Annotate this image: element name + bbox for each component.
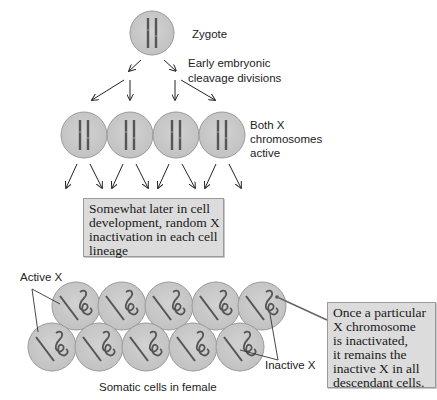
box-line: Once a particular (333, 306, 430, 320)
box-line: inactivation in each cell (89, 230, 218, 244)
somatic-cells-label: Somatic cells in female (99, 380, 217, 395)
somatic-cells-top-row (52, 282, 286, 330)
early-embryo-cells (61, 112, 245, 158)
cleavage-label-line2: cleavage divisions (188, 71, 281, 86)
box-line: lineage (89, 244, 218, 258)
both-active-label-line3: active (250, 146, 280, 161)
inheritance-box: Once a particular X chromosome is inacti… (327, 302, 436, 388)
zygote-label: Zygote (192, 27, 227, 42)
box-line: it remains the (333, 348, 430, 362)
active-x-label: Active X (20, 270, 62, 285)
box-line: descendant cells. (333, 376, 430, 390)
box-line: development, random X (89, 216, 218, 230)
box-line: is inactivated, (333, 334, 430, 348)
division-arrows (66, 164, 241, 188)
somatic-cells-bottom-row (28, 323, 264, 371)
random-inactivation-box: Somewhat later in cell development, rand… (83, 198, 224, 257)
cleavage-label-line1: Early embryonic (188, 56, 270, 71)
box-line: Somewhat later in cell (89, 202, 218, 216)
both-active-label-line1: Both X (250, 118, 285, 133)
box-line: inactive X in all (333, 362, 430, 376)
box-line: X chromosome (333, 320, 430, 334)
both-active-label-line2: chromosomes (250, 132, 322, 147)
zygote-cell (130, 11, 174, 55)
inactive-x-label: Inactive X (265, 358, 316, 373)
